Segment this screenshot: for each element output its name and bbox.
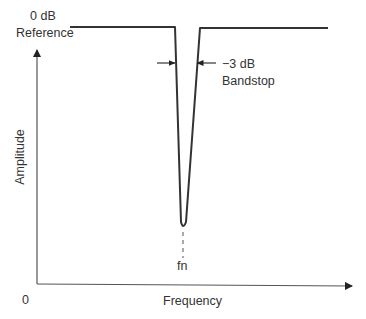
response-curve (70, 27, 328, 226)
bandstop-label-line2: Bandstop (222, 74, 275, 88)
notch-frequency-label: fn (177, 259, 187, 273)
bandstop-filter-diagram: 0 dB Reference −3 dB Bandstop Amplitude … (0, 0, 366, 319)
x-axis-label: Frequency (163, 294, 222, 308)
origin-label: 0 (22, 293, 29, 307)
x-axis (37, 284, 352, 286)
bandstop-label-line1: −3 dB (222, 57, 255, 71)
reference-label-line2: Reference (16, 26, 74, 40)
reference-label-line1: 0 dB (30, 9, 56, 23)
y-axis-label: Amplitude (13, 129, 27, 185)
